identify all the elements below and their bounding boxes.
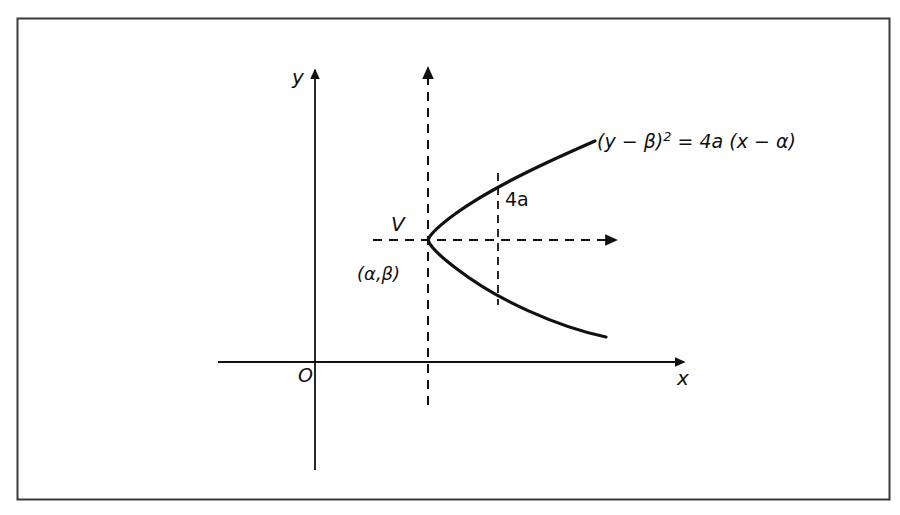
canvas-background — [0, 0, 900, 515]
x-axis-label: x — [676, 366, 689, 390]
origin-label: O — [298, 364, 313, 386]
parabola-figure: y x O V (α,β) 4a (y − β)2 = 4a (x − α) — [0, 0, 900, 515]
equation-superscript: 2 — [663, 129, 671, 144]
latus-rectum-label: 4a — [505, 188, 529, 210]
y-axis-label: y — [291, 65, 305, 89]
vertex-coordinates-label: (α,β) — [357, 263, 400, 284]
parabola-diagram-svg: y x O V (α,β) 4a (y − β)2 = 4a (x − α) — [0, 0, 900, 515]
equation-part-two: = 4a (x − α) — [671, 130, 795, 152]
vertex-label: V — [391, 212, 406, 236]
latus-rectum-text: 4a — [505, 188, 529, 210]
equation-label: (y − β)2 = 4a (x − α) — [597, 129, 796, 152]
equation-part-one: (y − β) — [597, 130, 663, 152]
